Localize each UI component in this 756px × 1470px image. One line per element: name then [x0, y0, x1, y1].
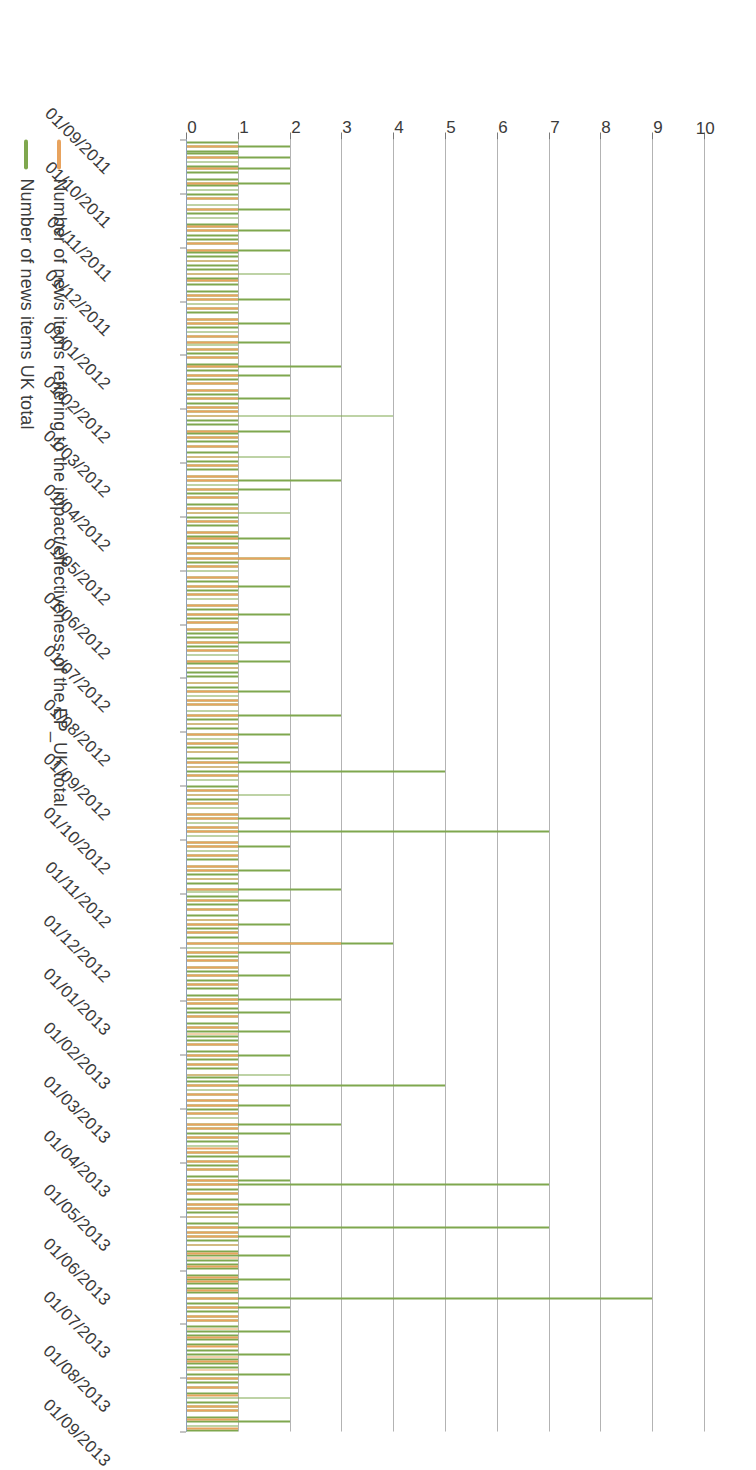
legend-swatch-icon — [25, 139, 29, 169]
series-uk-total-point — [186, 1108, 238, 1110]
series-ep-impact-point — [186, 628, 238, 630]
series-ep-impact-point — [186, 365, 238, 367]
series-ep-impact-point — [186, 649, 238, 651]
date-tick — [180, 1216, 186, 1217]
series-ep-impact-point — [186, 512, 238, 514]
series-uk-total-point — [186, 217, 238, 219]
series-uk-total-point — [186, 1330, 290, 1332]
series-ep-impact-point — [186, 1207, 238, 1209]
series-ep-impact-point — [186, 1315, 238, 1317]
legend-entry[interactable]: Number of news items UK total — [16, 139, 37, 806]
series-ep-impact-point — [186, 1026, 238, 1028]
gridline-10 — [704, 139, 705, 1431]
series-ep-impact-point — [186, 1369, 238, 1371]
series-ep-impact-point — [186, 1356, 238, 1358]
series-uk-total-point — [186, 1338, 238, 1340]
series-ep-impact-point — [186, 1427, 238, 1429]
series-uk-total-point — [186, 1358, 238, 1360]
series-ep-impact-point — [186, 1235, 238, 1237]
series-uk-total-point — [186, 1310, 238, 1312]
series-uk-total-point — [186, 570, 238, 572]
series-uk-total-point — [186, 1420, 290, 1422]
series-uk-total-point — [186, 1259, 238, 1261]
series-uk-total-point — [186, 1007, 238, 1009]
series-uk-total-point — [186, 204, 238, 206]
series-uk-total-point — [186, 419, 238, 421]
series-uk-total-point — [186, 850, 238, 852]
series-ep-impact-point — [186, 406, 238, 408]
series-ep-impact-point — [186, 923, 238, 925]
date-tick — [180, 1000, 186, 1001]
series-uk-total-point — [186, 184, 238, 186]
series-ep-impact-point — [186, 1151, 238, 1153]
series-uk-total-point — [186, 1274, 238, 1276]
series-ep-impact-point — [186, 817, 238, 819]
series-ep-impact-point — [186, 430, 238, 432]
series-ep-impact-point — [186, 374, 238, 376]
series-ep-impact-point — [186, 998, 238, 1000]
date-tick — [180, 677, 186, 678]
series-uk-total-point — [186, 1282, 238, 1284]
series-uk-total-point — [186, 150, 238, 152]
series-uk-total-point — [186, 903, 238, 905]
value-axis-baseline — [186, 139, 187, 1431]
series-ep-impact-point — [186, 1319, 238, 1321]
series-uk-total-point — [186, 632, 238, 634]
series-ep-impact-point — [186, 1074, 238, 1076]
series-uk-total-point — [186, 779, 238, 781]
value-axis-label: 8 — [602, 118, 612, 138]
series-uk-total-point — [186, 1035, 238, 1037]
series-ep-impact-point — [186, 557, 290, 559]
series-uk-total-point — [186, 524, 238, 526]
series-uk-total-point — [186, 432, 238, 434]
series-uk-total-point — [186, 598, 238, 600]
series-ep-impact-point — [186, 242, 238, 244]
series-uk-total-point — [186, 1155, 290, 1157]
value-axis-label: 0 — [187, 118, 197, 138]
series-ep-impact-point — [186, 445, 238, 447]
series-uk-total-point — [186, 822, 238, 824]
series-uk-total-point — [186, 927, 238, 929]
series-uk-total-point — [186, 1291, 238, 1293]
series-ep-impact-point — [186, 1168, 238, 1170]
series-ep-impact-point — [186, 464, 238, 466]
series-ep-impact-point — [186, 576, 238, 578]
series-uk-total-point — [186, 369, 238, 371]
series-ep-impact-point — [186, 1289, 238, 1291]
series-uk-total-point — [186, 1089, 238, 1091]
series-uk-total-point — [186, 636, 238, 638]
series-ep-impact-point — [186, 546, 238, 548]
series-uk-total-point — [186, 1239, 238, 1241]
series-ep-impact-point — [186, 826, 238, 828]
series-ep-impact-point — [186, 789, 238, 791]
series-uk-total-point — [186, 1175, 238, 1177]
series-uk-total-point — [186, 617, 238, 619]
series-uk-total-point — [186, 1140, 238, 1142]
legend-label: Number of news items reffering to the im… — [49, 178, 70, 806]
series-ep-impact-point — [186, 613, 238, 615]
series-uk-total-point — [186, 947, 238, 949]
series-ep-impact-point — [186, 1394, 238, 1396]
series-ep-impact-point — [186, 1084, 238, 1086]
series-uk-total-point — [186, 1267, 238, 1269]
series-uk-total-point — [186, 234, 238, 236]
series-ep-impact-point — [186, 436, 238, 438]
series-ep-impact-point — [186, 1104, 238, 1106]
series-uk-total-point — [186, 1366, 238, 1368]
series-uk-total-point — [186, 1397, 290, 1399]
series-ep-impact-point — [186, 1054, 238, 1056]
series-uk-total-point — [186, 807, 238, 809]
series-uk-total-point — [186, 378, 238, 380]
series-ep-impact-point — [186, 537, 238, 539]
series-uk-total-point — [186, 645, 238, 647]
date-tick — [180, 247, 186, 248]
series-uk-total-point — [186, 835, 238, 837]
series-uk-total-point — [186, 268, 238, 270]
series-uk-total-point — [186, 1362, 238, 1364]
series-ep-impact-point — [186, 1063, 238, 1065]
legend-entry[interactable]: Number of news items reffering to the im… — [49, 139, 70, 806]
series-uk-total-point — [186, 1211, 238, 1213]
series-uk-total-point — [186, 1287, 238, 1289]
series-uk-total-point — [186, 675, 238, 677]
series-ep-impact-point — [186, 279, 238, 281]
